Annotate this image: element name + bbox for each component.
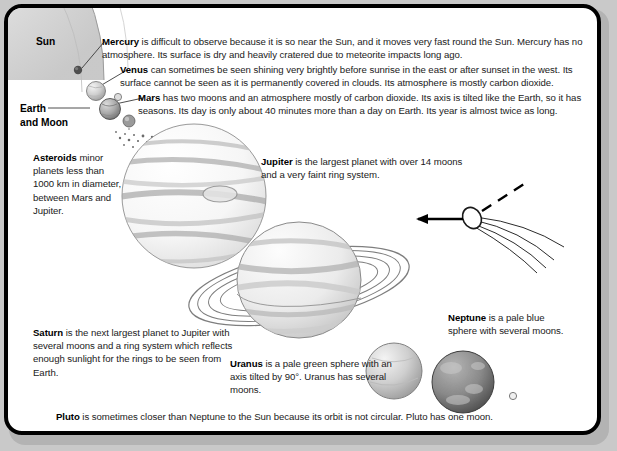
- sun-label: Sun: [36, 35, 55, 49]
- jupiter-lead: Jupiter: [261, 156, 293, 167]
- neptune-lead: Neptune: [448, 312, 486, 323]
- mercury-lead: Mercury: [102, 36, 139, 47]
- mars-lead: Mars: [138, 92, 160, 103]
- jupiter-description: Jupiter is the largest planet with over …: [261, 155, 476, 181]
- mars-body: has two moons and an atmosphere mostly o…: [138, 92, 581, 116]
- asteroids-description: Asteroids minor planets less than 1000 k…: [33, 151, 123, 217]
- mercury-body: is difficult to observe because it is so…: [102, 36, 582, 60]
- mercury-description: Mercury is difficult to observe because …: [102, 35, 601, 61]
- neptune-sphere: [432, 351, 494, 413]
- saturn-description: Saturn is the next largest planet to Jup…: [33, 326, 238, 379]
- earth-and-moon-label: Earth and Moon: [20, 102, 68, 129]
- pluto-lead: Pluto: [56, 411, 80, 422]
- mars-description: Mars has two moons and an atmosphere mos…: [138, 91, 601, 117]
- neptune-description: Neptune is a pale blue sphere with sever…: [448, 311, 568, 337]
- asteroids-lead: Asteroids: [33, 152, 77, 163]
- saturn-lead: Saturn: [33, 327, 63, 338]
- comet-direction-arrow: [416, 214, 463, 224]
- venus-description: Venus can sometimes be seen shining very…: [120, 63, 601, 89]
- saturn-body: is the next largest planet to Jupiter wi…: [33, 327, 232, 378]
- diagram-panel: Sun Earth and Moon Mercury is difficult …: [4, 4, 601, 435]
- mercury-dot: [74, 66, 82, 74]
- solar-system-poster: Sun Earth and Moon Mercury is difficult …: [0, 0, 617, 451]
- comet: [416, 184, 564, 273]
- pluto-body: is sometimes closer than Neptune to the …: [80, 411, 493, 422]
- venus-body: can sometimes be seen shining very brigh…: [120, 64, 573, 88]
- uranus-lead: Uranus: [230, 358, 263, 369]
- moon-dot: [114, 93, 121, 100]
- mars-dot: [123, 115, 135, 127]
- venus-sphere: [87, 82, 106, 101]
- venus-lead: Venus: [120, 64, 148, 75]
- pluto-dot: [509, 392, 516, 399]
- uranus-description: Uranus is a pale green sphere with an ax…: [230, 357, 405, 397]
- pluto-description: Pluto is sometimes closer than Neptune t…: [56, 410, 576, 423]
- comet-orbit-dashes: [482, 184, 524, 211]
